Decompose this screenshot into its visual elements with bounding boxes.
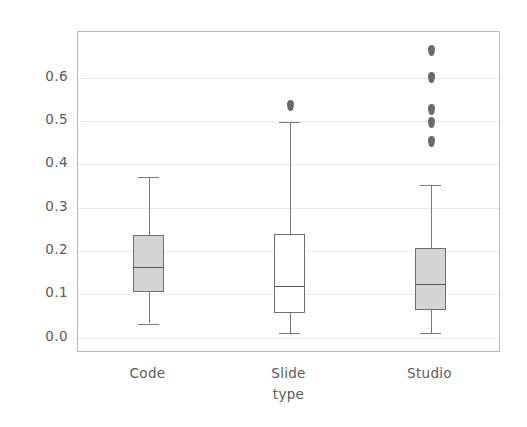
median-line — [415, 284, 446, 285]
box-plot-figure: video_average_watching_rate 0.00.10.20.3… — [0, 0, 527, 427]
y-axis-tick-label: 0.6 — [20, 68, 68, 84]
boxplot-studio — [78, 32, 499, 351]
cap-lower — [420, 333, 441, 334]
outlier-marker — [428, 104, 435, 115]
x-axis-label: type — [239, 386, 339, 402]
whisker-lower — [431, 310, 432, 333]
outlier-marker — [428, 45, 435, 56]
y-axis-tick-label: 0.2 — [20, 241, 68, 257]
boxplot-series — [78, 32, 499, 351]
outlier-marker — [428, 117, 435, 128]
x-axis-tick-label-slide: Slide — [239, 365, 339, 381]
x-axis-tick-label-studio: Studio — [380, 365, 480, 381]
y-axis-tick-label: 0.4 — [20, 154, 68, 170]
x-axis-tick-label-code: Code — [98, 365, 198, 381]
cap-upper — [420, 185, 441, 186]
plot-area — [77, 31, 500, 352]
outlier-marker — [428, 136, 435, 147]
y-axis-tick-label: 0.0 — [20, 328, 68, 344]
y-axis-tick-label: 0.1 — [20, 284, 68, 300]
box-iqr — [415, 248, 446, 311]
whisker-upper — [431, 185, 432, 247]
y-axis-tick-label: 0.5 — [20, 111, 68, 127]
y-axis-tick-label: 0.3 — [20, 198, 68, 214]
outlier-marker — [428, 72, 435, 83]
